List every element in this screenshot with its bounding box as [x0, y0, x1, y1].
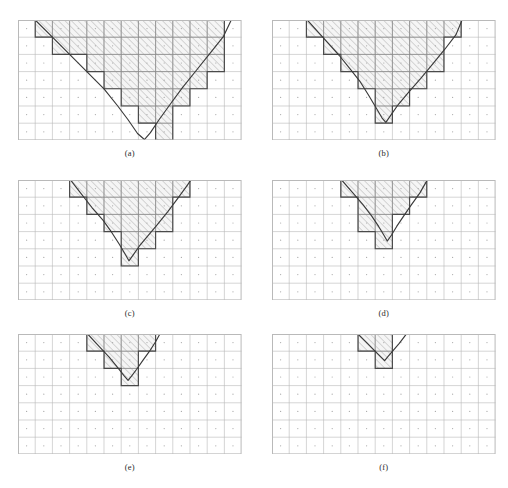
panel-f: (f) — [272, 334, 496, 472]
panel-e-caption: (e) — [18, 462, 242, 472]
panel-b-grid — [272, 20, 496, 140]
panel-d: (d) — [272, 180, 496, 318]
panel-d-caption: (d) — [272, 308, 496, 318]
panel-d-grid — [272, 180, 496, 300]
panel-e: (e) — [18, 334, 242, 472]
panel-a-caption: (a) — [18, 148, 242, 158]
panel-b: (b) — [272, 20, 496, 158]
panel-c-grid — [18, 180, 242, 300]
panel-a: (a) — [18, 20, 242, 158]
figure-container: (a)(b)(c)(d)(e)(f) — [0, 0, 508, 488]
panel-a-grid — [18, 20, 242, 140]
panel-c-caption: (c) — [18, 308, 242, 318]
panel-f-grid — [272, 334, 496, 454]
panel-b-caption: (b) — [272, 148, 496, 158]
panel-e-grid — [18, 334, 242, 454]
panel-f-caption: (f) — [272, 462, 496, 472]
panel-c: (c) — [18, 180, 242, 318]
